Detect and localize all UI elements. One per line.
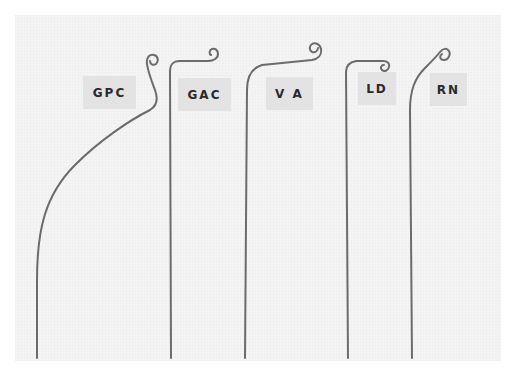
label-rn-text: RN (437, 83, 460, 97)
catheter-wires (0, 0, 523, 378)
label-gac: GAC (178, 78, 231, 111)
label-gac-text: GAC (188, 88, 222, 102)
label-va-text: V A (275, 87, 304, 101)
label-ld: LD (358, 72, 396, 105)
label-gpc-text: GPC (93, 86, 126, 100)
label-ld-text: LD (366, 82, 388, 96)
catheter-ld-wire (346, 61, 389, 358)
label-rn: RN (430, 73, 467, 106)
label-gpc: GPC (83, 76, 136, 109)
label-va: V A (266, 77, 313, 110)
